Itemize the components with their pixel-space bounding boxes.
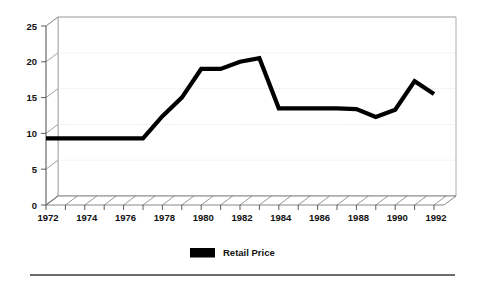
x-tick-label-1992: 1992 <box>425 212 446 223</box>
chart-legend: Retail Price <box>190 247 275 258</box>
y-tick-label-25: 25 <box>26 21 37 32</box>
y-tick-label-5: 5 <box>32 164 38 175</box>
legend-swatch-retail-price <box>190 248 215 258</box>
x-tick-label-1982: 1982 <box>231 212 252 223</box>
plot-floor <box>46 196 456 205</box>
x-tick-label-1972: 1972 <box>37 212 58 223</box>
y-tick-label-20: 20 <box>26 56 37 67</box>
x-tick-label-1984: 1984 <box>270 212 292 223</box>
x-tick-label-1990: 1990 <box>387 212 408 223</box>
x-tick-label-1980: 1980 <box>193 212 214 223</box>
figure-container: 25 20 15 10 5 0 <box>0 0 479 285</box>
plot-left-wall <box>46 17 58 205</box>
y-tick-label-10: 10 <box>26 128 37 139</box>
y-tick-label-0: 0 <box>32 200 37 211</box>
x-tick-label-1986: 1986 <box>309 212 330 223</box>
retail-price-line-chart: 25 20 15 10 5 0 <box>0 0 479 285</box>
x-tick-label-1978: 1978 <box>154 212 175 223</box>
legend-label-retail-price: Retail Price <box>223 247 275 258</box>
x-tick-label-1988: 1988 <box>348 212 369 223</box>
x-axis-ticks <box>46 205 434 210</box>
x-tick-label-1976: 1976 <box>115 212 136 223</box>
y-tick-label-15: 15 <box>26 92 37 103</box>
x-tick-label-1974: 1974 <box>76 212 98 223</box>
